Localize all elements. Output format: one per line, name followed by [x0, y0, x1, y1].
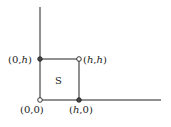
label-origin: (0,0) — [20, 104, 44, 115]
label-bottom-right: (h,0) — [69, 104, 93, 115]
region-label: S — [55, 75, 62, 86]
diagram-canvas: S (0,h) (h,h) (0,0) (h,0) — [0, 0, 171, 127]
point-top-right — [77, 57, 82, 62]
label-top-left: (0,h) — [8, 54, 32, 65]
point-top-left — [38, 57, 43, 62]
label-top-right: (h,h) — [83, 54, 107, 65]
point-origin — [38, 98, 43, 103]
point-bottom-right — [77, 98, 82, 103]
